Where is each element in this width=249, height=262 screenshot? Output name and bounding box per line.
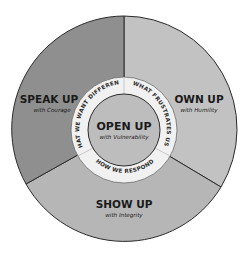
center-subtitle: with Vulnerability xyxy=(100,134,150,141)
engagement-circle-diagram: WHAT FRUSTRATES US HOW WE RESPOND WHAT W… xyxy=(0,0,249,262)
speak-up-subtitle: with Courage xyxy=(33,107,71,114)
own-up-title: OWN UP xyxy=(174,93,223,105)
own-up-subtitle: with Humility xyxy=(180,107,218,114)
show-up-subtitle: with Integrity xyxy=(105,212,143,219)
show-up-title: SHOW UP xyxy=(96,198,153,210)
speak-up-title: SPEAK UP xyxy=(20,93,79,105)
center-title: OPEN UP xyxy=(97,120,152,133)
